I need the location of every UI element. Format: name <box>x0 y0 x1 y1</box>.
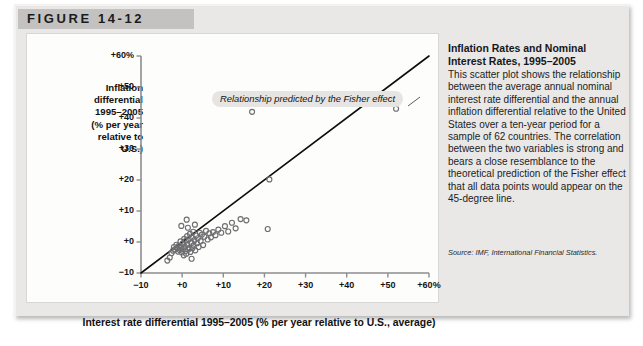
data-point <box>189 256 194 261</box>
x-tick-label: +20 <box>248 280 280 290</box>
data-point <box>222 224 227 229</box>
y-tick-label: +60% <box>27 50 134 60</box>
fisher-effect-annotation: Relationship predicted by the Fisher eff… <box>212 91 403 107</box>
caption-source: Source: IMF, International Financial Sta… <box>448 248 626 257</box>
reference-line-45deg <box>141 56 429 273</box>
y-tick-label: −10 <box>27 267 134 277</box>
data-point <box>185 225 190 230</box>
scatter-plot <box>27 34 438 302</box>
data-point <box>216 227 221 232</box>
data-point <box>250 109 255 114</box>
figure-label: FIGURE 14-12 <box>27 11 144 26</box>
annotation-leader-line <box>408 97 420 106</box>
figure-page: FIGURE 14-12 Inflationdifferential1995–2… <box>0 0 643 346</box>
data-point <box>179 223 184 228</box>
data-point <box>229 220 234 225</box>
data-point <box>233 226 238 231</box>
y-tick-label: +30 <box>27 143 134 153</box>
data-point <box>238 217 243 222</box>
data-point <box>184 217 189 222</box>
data-point <box>267 177 272 182</box>
x-tick-label: +10 <box>207 280 239 290</box>
y-tick-label: +40 <box>27 112 134 122</box>
data-point <box>265 226 270 231</box>
x-tick-label: +60% <box>413 280 445 290</box>
x-axis-title: Interest rate differential 1995–2005 (% … <box>55 317 463 328</box>
plot-svg <box>27 34 438 302</box>
chart-panel: Inflationdifferential1995–2005(% per yea… <box>26 33 439 303</box>
y-tick-label: +0 <box>27 236 134 246</box>
data-point <box>226 229 231 234</box>
x-tick-label: +30 <box>290 280 322 290</box>
y-tick-label: +10 <box>27 205 134 215</box>
data-point <box>244 218 249 223</box>
x-tick-label: −10 <box>125 280 157 290</box>
data-point <box>201 243 206 248</box>
y-tick-label: +20 <box>27 174 134 184</box>
x-tick-label: +50 <box>372 280 404 290</box>
x-tick-label: +0 <box>166 280 198 290</box>
x-tick-label: +40 <box>331 280 363 290</box>
caption-sidebar: Inflation Rates and Nominal Interest Rat… <box>444 33 629 301</box>
data-point <box>219 230 224 235</box>
y-tick-label: +50 <box>27 81 134 91</box>
caption-title: Inflation Rates and Nominal Interest Rat… <box>448 42 624 67</box>
data-point <box>192 222 197 227</box>
caption-body: This scatter plot shows the relationship… <box>448 69 626 205</box>
